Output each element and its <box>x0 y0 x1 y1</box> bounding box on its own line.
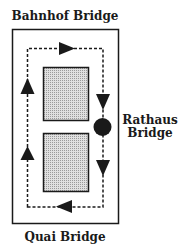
lower-block <box>44 134 89 192</box>
quai-bridge-label: Quai Bridge <box>0 231 130 244</box>
rathaus-bridge-label-line2: Bridge <box>122 127 178 140</box>
arrow-left-icon <box>56 200 72 213</box>
arrow-right-icon <box>59 42 75 55</box>
upper-block <box>44 68 89 121</box>
arrow-up-icon <box>21 78 35 94</box>
arrow-up-icon <box>21 146 35 160</box>
arrow-down-icon <box>96 160 110 176</box>
rathaus-bridge-label: Rathaus Bridge <box>122 114 178 140</box>
arrow-down-icon <box>96 94 110 110</box>
rathaus-bridge-marker <box>94 118 112 136</box>
bahnhof-bridge-label: Bahnhof Bridge <box>0 10 130 23</box>
